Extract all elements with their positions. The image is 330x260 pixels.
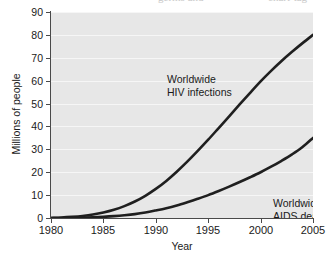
x-axis-tick-label: 1985 xyxy=(80,224,126,236)
x-axis-line xyxy=(50,218,314,219)
x-axis-tick-label: 2000 xyxy=(238,224,284,236)
y-axis-line xyxy=(50,11,51,219)
y-axis-tick-label: 90 xyxy=(3,7,43,17)
y-axis-tick-label: 80 xyxy=(3,30,43,40)
y-axis-tick xyxy=(46,81,51,82)
annotation-aids-line1: Worldwide xyxy=(273,197,313,210)
annotation-hiv-line2: HIV infections xyxy=(167,86,232,99)
x-axis-tick xyxy=(51,218,52,223)
y-axis-title: Millions of people xyxy=(10,34,22,194)
x-axis-tick xyxy=(156,218,157,223)
y-axis-tick xyxy=(46,12,51,13)
annotation-aids-deaths: Worldwide AIDS deaths xyxy=(273,197,313,218)
series-curves xyxy=(51,12,313,218)
x-axis-tick-label: 2005 xyxy=(290,224,330,236)
y-axis-tick-label: 60 xyxy=(3,76,43,86)
x-axis-tick-label: 1980 xyxy=(28,224,74,236)
annotation-aids-line2: AIDS deaths xyxy=(273,210,313,219)
annotation-hiv-line1: Worldwide xyxy=(167,73,232,86)
x-axis-tick xyxy=(313,218,314,223)
y-axis-tick xyxy=(46,58,51,59)
x-axis-tick xyxy=(261,218,262,223)
curve-hiv-infections xyxy=(51,35,313,218)
y-axis-tick-label: 0 xyxy=(3,213,43,223)
y-axis-tick xyxy=(46,149,51,150)
x-axis-tick-label: 1995 xyxy=(185,224,231,236)
y-axis-tick xyxy=(46,172,51,173)
y-axis-tick-label: 20 xyxy=(3,167,43,177)
y-axis-tick-label: 30 xyxy=(3,144,43,154)
plot-area: Worldwide HIV infections Worldwide AIDS … xyxy=(51,12,313,218)
y-axis-tick-label: 70 xyxy=(3,53,43,63)
y-axis-tick-label: 50 xyxy=(3,99,43,109)
annotation-hiv-infections: Worldwide HIV infections xyxy=(167,73,232,98)
y-axis-tick xyxy=(46,35,51,36)
chart-figure: Worldwide HIV infections Worldwide AIDS … xyxy=(0,0,330,260)
x-axis-tick xyxy=(103,218,104,223)
y-axis-tick xyxy=(46,104,51,105)
x-axis-title: Year xyxy=(51,240,313,252)
x-axis-tick xyxy=(208,218,209,223)
y-axis-tick xyxy=(46,195,51,196)
y-axis-tick-label: 10 xyxy=(3,190,43,200)
y-axis-tick xyxy=(46,126,51,127)
x-axis-tick-label: 1990 xyxy=(133,224,179,236)
y-axis-tick-label: 40 xyxy=(3,121,43,131)
